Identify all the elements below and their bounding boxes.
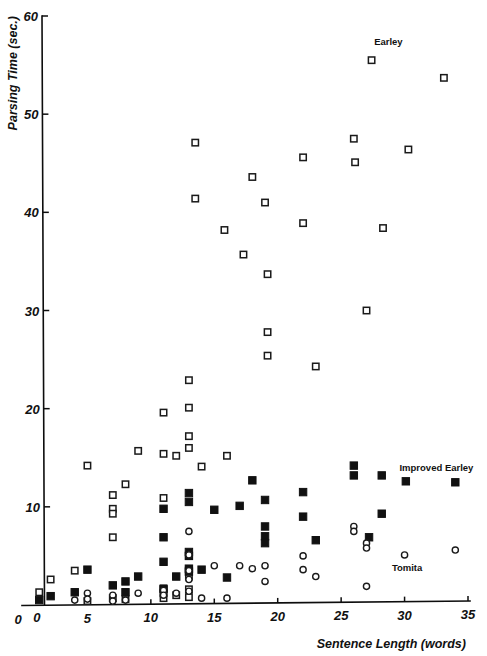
data-point-tomita — [186, 528, 192, 534]
series-annotations: EarleyImproved EarleyTomita — [374, 36, 474, 572]
data-point-tomita — [237, 563, 243, 569]
y-tick-label: 40 — [23, 205, 39, 220]
data-point-earley — [352, 159, 358, 165]
data-point-tomita — [300, 553, 306, 559]
data-point-tomita — [249, 566, 255, 572]
x-tick-label: 0 — [14, 612, 22, 627]
data-point-improved-earley — [299, 488, 306, 495]
data-point-tomita — [351, 528, 357, 534]
data-point-earley — [47, 576, 53, 582]
data-point-improved-earley — [36, 596, 43, 603]
data-point-earley — [186, 377, 192, 383]
data-point-tomita — [211, 563, 217, 569]
data-point-earley — [186, 404, 192, 410]
y-axis-tick-labels: 0102030405060 — [23, 9, 41, 625]
data-point-tomita — [72, 597, 78, 603]
data-point-earley — [380, 225, 386, 231]
data-point-tomita — [186, 552, 192, 558]
data-point-earley — [264, 329, 270, 335]
data-point-earley — [186, 433, 192, 439]
y-tick-label: 20 — [24, 402, 40, 417]
data-point-improved-earley — [160, 558, 167, 565]
data-point-earley — [264, 271, 270, 277]
data-point-earley — [300, 154, 306, 160]
data-point-earley — [160, 451, 166, 457]
data-point-tomita — [401, 552, 407, 558]
data-point-tomita — [363, 583, 369, 589]
x-tick-label: 25 — [333, 608, 349, 623]
scatter-plot-figure: 0102030405060 05101520253035 EarleyImpro… — [0, 0, 487, 656]
data-point-earley — [198, 463, 204, 469]
data-point-improved-earley — [185, 498, 192, 505]
data-point-earley — [441, 75, 447, 81]
x-axis-tick-labels: 05101520253035 — [14, 607, 476, 627]
data-point-improved-earley — [198, 566, 205, 573]
data-point-tomita — [224, 595, 230, 601]
data-point-improved-earley — [109, 582, 116, 589]
data-point-earley — [221, 227, 227, 233]
data-point-earley — [300, 220, 306, 226]
data-point-earley — [135, 448, 141, 454]
data-point-tomita — [452, 547, 458, 553]
data-point-earley — [36, 589, 42, 595]
data-point-earley — [262, 199, 268, 205]
data-point-tomita — [262, 563, 268, 569]
series-label-tomita: Tomita — [392, 562, 423, 573]
series-earley-points — [36, 57, 447, 604]
data-point-earley — [264, 352, 270, 358]
data-point-earley — [186, 445, 192, 451]
data-point-tomita — [122, 597, 128, 603]
data-point-earley — [192, 139, 198, 145]
data-point-earley — [363, 307, 369, 313]
data-point-earley — [122, 481, 128, 487]
data-point-earley — [240, 251, 246, 257]
data-point-earley — [368, 57, 374, 63]
y-tick-label: 50 — [24, 107, 39, 122]
plot-canvas: 0102030405060 05101520253035 EarleyImpro… — [0, 0, 487, 656]
data-point-tomita — [110, 598, 116, 604]
data-point-tomita — [186, 588, 192, 594]
data-point-improved-earley — [236, 502, 243, 509]
data-point-improved-earley — [378, 510, 385, 517]
data-point-improved-earley — [249, 477, 256, 484]
data-point-tomita — [262, 578, 268, 584]
data-point-improved-earley — [378, 472, 385, 479]
data-point-earley — [405, 146, 411, 152]
data-point-improved-earley — [350, 472, 357, 479]
data-point-earley — [249, 174, 255, 180]
x-tick-label: 35 — [461, 607, 476, 622]
data-point-tomita — [186, 568, 192, 574]
data-point-improved-earley — [223, 574, 230, 581]
data-point-earley — [72, 567, 78, 573]
data-point-improved-earley — [261, 496, 268, 503]
data-point-tomita — [199, 595, 205, 601]
series-label-earley: Earley — [374, 36, 403, 47]
data-point-earley — [173, 453, 179, 459]
data-point-earley — [224, 453, 230, 459]
axes-group: 0102030405060 05101520253035 — [14, 9, 476, 627]
data-point-improved-earley — [350, 462, 357, 469]
x-tick-label: 10 — [144, 610, 159, 625]
data-point-improved-earley — [312, 537, 319, 544]
data-point-improved-earley — [299, 513, 306, 520]
data-point-improved-earley — [134, 573, 141, 580]
data-point-tomita — [160, 592, 166, 598]
data-point-improved-earley — [402, 478, 409, 485]
x-tick-label: 30 — [397, 608, 412, 623]
y-axis-title: Parsing Time (sec.) — [6, 16, 20, 130]
data-point-improved-earley — [122, 589, 129, 596]
data-point-tomita — [135, 590, 141, 596]
x-tick-label: 20 — [269, 609, 285, 624]
data-point-improved-earley — [211, 506, 218, 513]
data-point-improved-earley — [261, 523, 268, 530]
data-point-tomita — [313, 573, 319, 579]
data-point-earley — [351, 136, 357, 142]
data-point-tomita — [84, 596, 90, 602]
data-point-improved-earley — [84, 566, 91, 573]
data-point-improved-earley — [173, 573, 180, 580]
data-point-improved-earley — [71, 589, 78, 596]
data-point-earley — [110, 492, 116, 498]
y-tick-label: 30 — [25, 304, 40, 319]
data-point-improved-earley — [452, 479, 459, 486]
data-point-improved-earley — [185, 489, 192, 496]
